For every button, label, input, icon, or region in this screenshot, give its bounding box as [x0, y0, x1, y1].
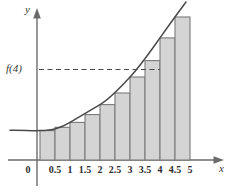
bar-rect	[100, 105, 115, 160]
x-tick-label: 4	[158, 165, 163, 175]
bar-rect	[130, 77, 145, 160]
bar-rect	[175, 17, 190, 160]
x-tick-label: 2	[98, 165, 103, 175]
bar-rect	[40, 131, 55, 160]
x-tick-label: 3	[128, 165, 133, 175]
x-tick-label: 1	[68, 165, 73, 175]
f-of-4-label: f(4)	[6, 63, 22, 74]
x-tick-label: 0.5	[49, 165, 62, 175]
riemann-rectangles	[40, 17, 190, 160]
x-tick-label: 1.5	[79, 165, 92, 175]
x-tick-label: 2.5	[109, 165, 122, 175]
bar-rect	[55, 127, 70, 160]
y-axis-title: y	[25, 4, 30, 15]
x-axis-title: x	[219, 163, 224, 174]
bar-rect	[160, 38, 175, 160]
x-tick-label: 4.5	[169, 165, 182, 175]
riemann-sum-figure: y x f(4) 0 0.5 1 1.5 2 2.5 3 3.5 4 4.5 5	[0, 0, 233, 196]
bar-rect	[115, 93, 130, 160]
x-tick-label: 3.5	[139, 165, 152, 175]
x-tick-label: 5	[188, 165, 193, 175]
bar-rect	[70, 122, 85, 160]
bar-rect	[85, 115, 100, 160]
bar-rect	[145, 61, 160, 160]
x-tick-label: 0	[26, 165, 31, 175]
